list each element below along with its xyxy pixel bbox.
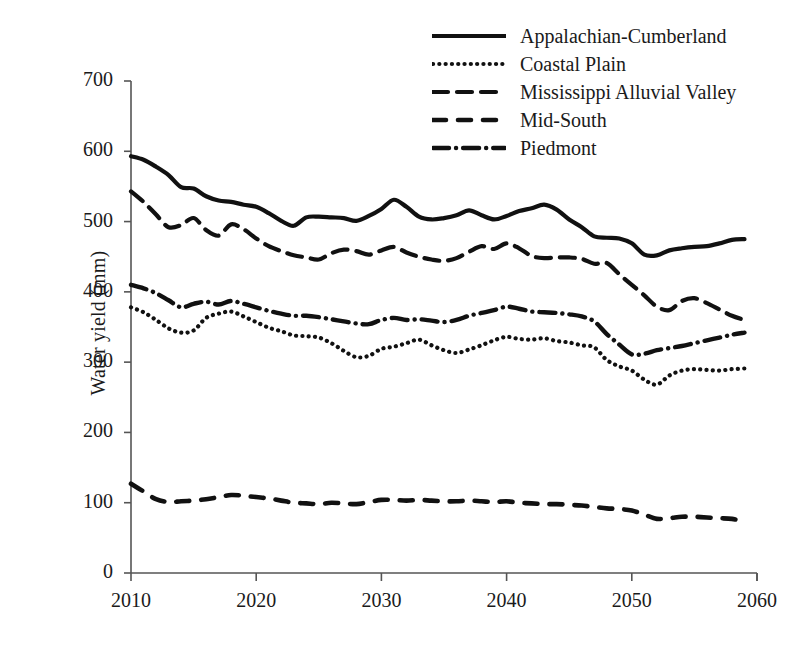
legend-line-sample-icon <box>432 28 506 44</box>
legend-line-sample-icon <box>432 112 506 128</box>
series-line-piedmont <box>131 285 744 355</box>
y-tick-label: 500 <box>53 209 113 232</box>
series-line-appalachian-cumberland <box>131 156 744 256</box>
y-tick-label: 600 <box>53 138 113 161</box>
y-tick-label: 0 <box>53 560 113 583</box>
legend-item: Piedmont <box>432 134 802 162</box>
legend-item-label: Piedmont <box>520 138 597 158</box>
legend-line-sample-icon <box>432 56 506 72</box>
x-tick-label: 2060 <box>712 589 802 612</box>
x-tick-label: 2040 <box>462 589 552 612</box>
legend-item-label: Mississippi Alluvial Valley <box>520 82 736 102</box>
y-tick-label: 200 <box>53 419 113 442</box>
series-line-coastal-plain <box>131 307 744 384</box>
x-tick-label: 2050 <box>587 589 677 612</box>
y-tick-label: 400 <box>53 279 113 302</box>
legend-item: Mid-South <box>432 106 802 134</box>
legend-item-label: Appalachian-Cumberland <box>520 26 727 46</box>
chart-legend: Appalachian-CumberlandCoastal PlainMissi… <box>432 22 802 162</box>
legend-item-label: Coastal Plain <box>520 54 626 74</box>
legend-line-sample-icon <box>432 84 506 100</box>
series-line-mid-south <box>131 484 744 522</box>
y-tick-label: 100 <box>53 490 113 513</box>
x-tick-label: 2030 <box>336 589 426 612</box>
legend-line-sample-icon <box>432 140 506 156</box>
chart-figure: Water yield (mm) 7006005004003002001000 … <box>0 0 811 646</box>
y-axis-title: Water yield (mm) <box>87 251 110 396</box>
legend-item: Appalachian-Cumberland <box>432 22 802 50</box>
legend-item: Coastal Plain <box>432 50 802 78</box>
y-tick-label: 700 <box>53 68 113 91</box>
y-tick-label: 300 <box>53 349 113 372</box>
legend-item-label: Mid-South <box>520 110 607 130</box>
x-tick-label: 2010 <box>86 589 176 612</box>
legend-item: Mississippi Alluvial Valley <box>432 78 802 106</box>
x-tick-label: 2020 <box>211 589 301 612</box>
